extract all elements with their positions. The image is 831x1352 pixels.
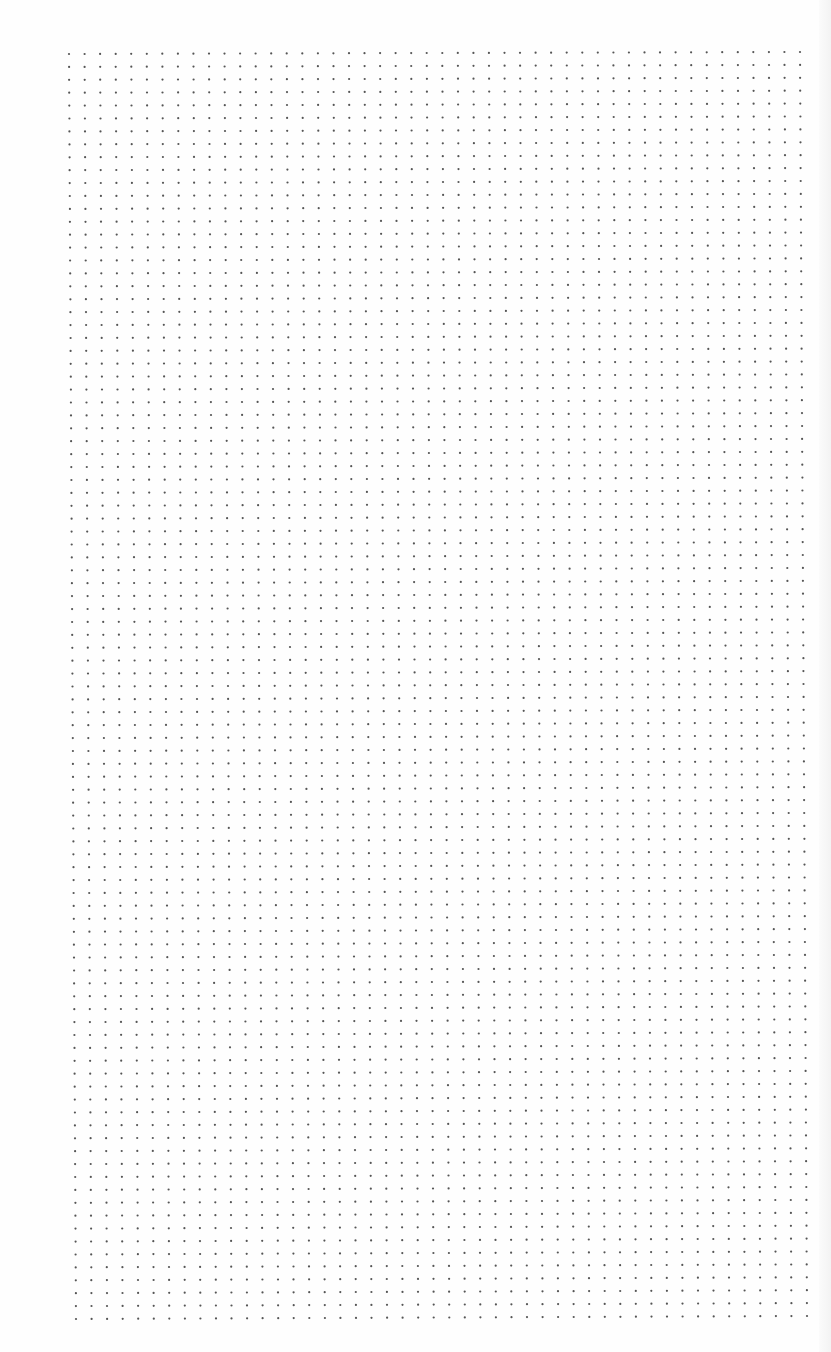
dot-grid-page: [0, 0, 831, 1352]
dot-grid: [0, 0, 831, 1352]
